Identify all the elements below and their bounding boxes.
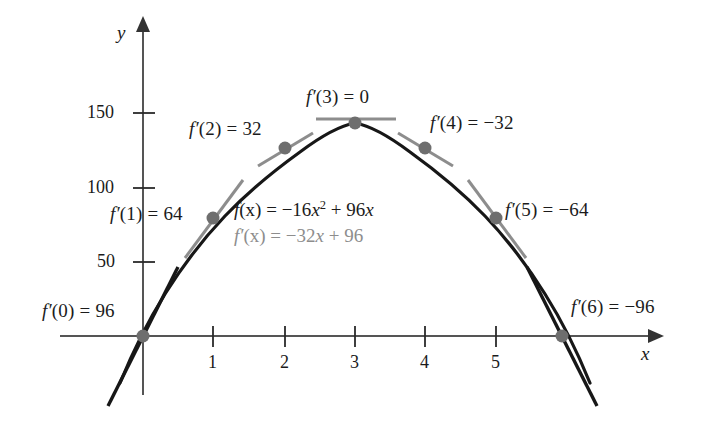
annotation-fprime-1-rest: (1) = 64 [120, 203, 183, 224]
annotation-fprime-1-lead: f′ [110, 203, 120, 224]
equation-function-tail-var: x [365, 199, 373, 220]
x-axis-arrowhead [648, 329, 664, 343]
point-x6 [556, 330, 569, 343]
y-tick-label-50: 50 [97, 251, 115, 272]
annotation-fprime-4-lead: f′ [430, 112, 440, 133]
x-tick-label-1: 1 [208, 352, 217, 373]
derivative-parabola-figure: y x 1 2 3 4 5 50 100 150 f′(0) = 96 f′(1… [0, 0, 706, 433]
point-x0 [137, 330, 150, 343]
point-x3 [349, 117, 362, 130]
x-tick-label-4: 4 [420, 352, 429, 373]
annotation-fprime-3-rest: (3) = 0 [316, 86, 369, 107]
annotation-fprime-1: f′(1) = 64 [110, 203, 183, 225]
point-x2 [279, 142, 292, 155]
equation-function-tail: + 96 [326, 199, 365, 220]
equation-function-var: x [311, 199, 319, 220]
point-x5 [490, 212, 503, 225]
annotation-fprime-6-lead: f′ [571, 296, 581, 317]
annotation-fprime-5: f′(5) = −64 [505, 199, 589, 221]
annotation-fprime-2: f′(2) = 32 [189, 118, 262, 140]
equation-derivative-rest: (x) = −32 [243, 225, 315, 246]
annotation-fprime-4-rest: (4) = −32 [440, 112, 514, 133]
point-x4 [419, 142, 432, 155]
y-tick-label-150: 150 [87, 102, 114, 123]
annotation-fprime-4: f′(4) = −32 [430, 112, 514, 134]
annotation-fprime-0-rest: (0) = 96 [52, 300, 115, 321]
x-axis-label: x [641, 343, 649, 365]
annotation-fprime-5-lead: f′ [505, 199, 515, 220]
y-tick-label-100: 100 [87, 177, 114, 198]
equation-derivative-tail: + 96 [324, 225, 363, 246]
annotation-fprime-2-lead: f′ [189, 118, 199, 139]
point-x1 [207, 212, 220, 225]
annotation-fprime-2-rest: (2) = 32 [199, 118, 262, 139]
y-axis-arrowhead [136, 16, 150, 32]
equation-derivative-var: x [316, 225, 324, 246]
annotation-fprime-0-lead: f′ [42, 300, 52, 321]
x-tick-label-2: 2 [280, 352, 289, 373]
equation-derivative: f′(x) = −32x + 96 [234, 225, 363, 247]
y-axis-label: y [117, 22, 125, 44]
equation-function-rest: (x) = −16 [239, 199, 311, 220]
equation-function: f(x) = −16x2 + 96x [234, 198, 374, 221]
annotation-fprime-6-rest: (6) = −96 [581, 296, 655, 317]
x-tick-label-5: 5 [491, 352, 500, 373]
annotation-fprime-5-rest: (5) = −64 [515, 199, 589, 220]
annotation-fprime-6: f′(6) = −96 [571, 296, 655, 318]
annotation-fprime-3: f′(3) = 0 [306, 86, 369, 108]
annotation-fprime-3-lead: f′ [306, 86, 316, 107]
x-tick-label-3: 3 [350, 352, 359, 373]
annotation-fprime-0: f′(0) = 96 [42, 300, 115, 322]
